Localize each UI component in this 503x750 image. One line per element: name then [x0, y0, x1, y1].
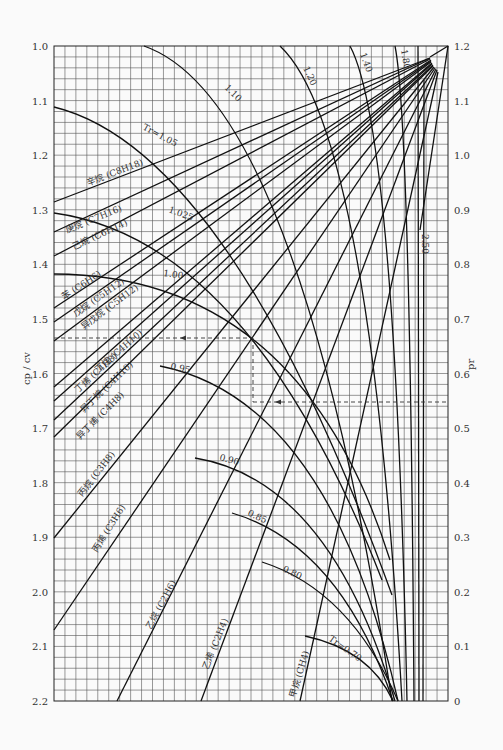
right-tick-label: 0.8 [454, 259, 470, 270]
tr-250-label: 2.50 [420, 234, 430, 254]
left-tick-label: 2.0 [32, 587, 48, 598]
left-tick-label: 1.7 [32, 423, 48, 434]
tr-105-label: Tr=1.05 [141, 122, 179, 149]
left-tick-label: 1.1 [32, 96, 48, 107]
y-axis-label-right: pr [465, 359, 476, 370]
octane-line [54, 58, 430, 202]
tr-high-line [423, 80, 424, 701]
tr-095-label: 0.95 [170, 361, 192, 375]
tr-080-curve [262, 562, 398, 701]
left-tick-label: 1.9 [32, 532, 48, 543]
arrow-icon [180, 336, 186, 341]
right-tick-label: 0.3 [454, 532, 470, 543]
tr-1025-label: 1.025 [167, 204, 195, 222]
left-tick-label: 1.4 [32, 259, 48, 270]
right-tick-label: 1.1 [454, 96, 470, 107]
right-tick-label: 0.9 [454, 205, 470, 216]
right-tick-label: 0.1 [454, 641, 470, 652]
octane-label: 辛烷 (C8H18) [85, 156, 145, 188]
left-tick-label: 1.6 [32, 369, 48, 380]
left-tick-label: 1.2 [32, 150, 48, 161]
left-tick-label: 2.2 [32, 696, 48, 707]
left-tick-label: 1.3 [32, 205, 48, 216]
right-tick-label: 1.0 [454, 150, 470, 161]
tr-085-curve [232, 513, 393, 701]
right-axis-ticks: 1.21.11.00.90.80.70.60.50.40.30.20.10 [454, 41, 470, 707]
right-tick-label: 0.2 [454, 587, 470, 598]
arrow-icon [275, 400, 281, 405]
right-tick-label: 0 [454, 696, 460, 707]
right-tick-label: 0.4 [454, 478, 470, 489]
tr-180-label: 1.80 [399, 49, 412, 71]
right-tick-label: 1.2 [454, 41, 470, 52]
left-tick-label: 1.8 [32, 478, 48, 489]
ethane-label: 乙烷 (C2H6) [143, 578, 178, 631]
tr-080-label: 0.80 [281, 564, 304, 582]
right-tick-label: 0.5 [454, 423, 470, 434]
left-tick-label: 1.0 [32, 41, 48, 52]
left-tick-label: 2.1 [32, 641, 48, 652]
left-tick-label: 1.5 [32, 314, 48, 325]
propane-label: 丙烷 (C3H8) [75, 449, 117, 498]
cp-cv-chart: 1.01.11.21.31.41.51.61.71.81.92.02.12.2 … [0, 0, 503, 750]
left-axis-ticks: 1.01.11.21.31.41.51.61.71.81.92.02.12.2 [32, 41, 48, 707]
propylene-label: 丙烯 (C3H6) [89, 502, 127, 554]
tr-070-label: Tr=0.70 [327, 633, 364, 663]
methane-label: 甲烷 (CH4) [286, 649, 311, 698]
tr-100-label: 1.00 [163, 268, 185, 281]
y-axis-label-left: cp / cv [21, 352, 32, 385]
top-edge-line [430, 46, 448, 57]
right-tick-label: 0.7 [454, 314, 470, 325]
